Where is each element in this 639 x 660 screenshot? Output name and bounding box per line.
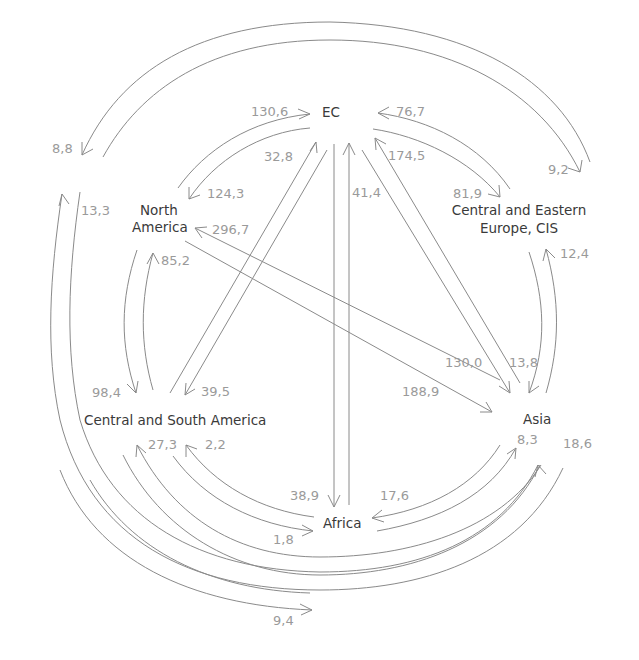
- value-asia-to-ec: 174,5: [388, 148, 425, 163]
- arrowhead-icon: [529, 381, 539, 393]
- value-ceec-to-asia: 13,8: [509, 355, 538, 370]
- value-ec-to-africa: 38,9: [290, 488, 319, 503]
- flow-na-to-csa: [124, 250, 137, 393]
- value-na-to-ec: 130,6: [251, 104, 288, 119]
- value-africa-to-csa: 2,2: [205, 437, 226, 452]
- value-na-to-asia: 188,9: [402, 384, 439, 399]
- value-csa-to-asia: 8,3: [517, 432, 538, 447]
- value-asia-to-ceec: 12,4: [560, 246, 589, 261]
- flow-ec-to-asia: [362, 150, 510, 393]
- value-na-to-africa: 9,4: [273, 613, 294, 628]
- value-ec-to-ceec: 81,9: [453, 186, 482, 201]
- value-ceec-to-ec: 76,7: [396, 104, 425, 119]
- flow-asia-to-csa: [137, 445, 541, 557]
- flow-asia-to-ec: [375, 138, 520, 383]
- value-na-to-csa: 98,4: [92, 385, 121, 400]
- region-ceec-line2: Europe, CIS: [480, 220, 558, 236]
- flow-csa-to-na: [143, 253, 153, 390]
- flow-lines: [0, 0, 590, 615]
- value-ceec-to-na: 8,8: [52, 141, 73, 156]
- flow-asia-to-ceec: [546, 249, 557, 393]
- value-asia-to-na-outer: 13,3: [81, 203, 110, 218]
- value-csa-to-ec: 32,8: [264, 149, 293, 164]
- region-ec: EC: [322, 104, 340, 120]
- flow-values: 130,6 124,3 32,8 39,5 76,7 81,9 174,5 13…: [52, 104, 592, 628]
- value-csa-to-africa: 1,8: [273, 532, 294, 547]
- flow-na-to-ceec: [103, 40, 580, 172]
- flow-ceec-to-asia: [529, 252, 542, 393]
- region-ceec: Central and Eastern: [452, 202, 586, 218]
- flow-na-to-asia: [185, 241, 492, 412]
- region-central-south-america: Central and South America: [84, 412, 266, 428]
- region-africa: Africa: [323, 515, 362, 531]
- value-asia-to-csa: 27,3: [148, 437, 177, 452]
- value-csa-to-na: 85,2: [161, 253, 190, 268]
- flow-asia-to-africa: [372, 445, 500, 518]
- flow-csa-to-ec: [170, 142, 316, 393]
- region-north-america-line2: America: [132, 219, 188, 235]
- value-na-to-asia-outer: 18,6: [563, 436, 592, 451]
- value-ec-to-na: 124,3: [207, 186, 244, 201]
- region-asia: Asia: [523, 411, 551, 427]
- value-ec-to-csa: 39,5: [201, 384, 230, 399]
- value-africa-to-asia: 17,6: [380, 488, 409, 503]
- value-na-to-ceec: 9,2: [548, 162, 569, 177]
- value-africa-to-ec: 41,4: [352, 185, 381, 200]
- value-ec-to-asia: 130,0: [445, 355, 482, 370]
- value-asia-to-na: 296,7: [212, 222, 249, 237]
- flow-africa-to-csa: [186, 445, 314, 517]
- trade-flow-diagram: EC North America Central and Eastern Eur…: [0, 0, 639, 660]
- region-north-america: North: [140, 202, 178, 218]
